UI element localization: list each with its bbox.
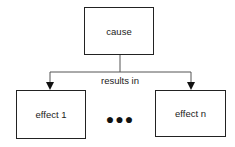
arrowhead-effect-n-icon — [187, 82, 195, 90]
cause-label: cause — [106, 26, 131, 37]
effect-n-box: effect n — [155, 90, 226, 137]
relation-label: results in — [99, 75, 141, 86]
arrowhead-effect-1-icon — [46, 82, 54, 90]
ellipsis-dots: ●●● — [106, 114, 134, 124]
cause-box: cause — [84, 7, 154, 55]
effect-1-label: effect 1 — [36, 109, 67, 120]
effect-n-label: effect n — [175, 108, 206, 119]
effect-1-box: effect 1 — [16, 90, 86, 139]
